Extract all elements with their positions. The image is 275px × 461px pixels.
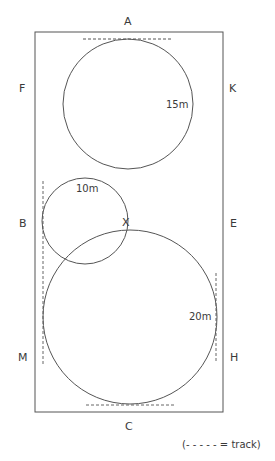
marker-x: X	[122, 216, 130, 229]
dressage-arena-diagram: X A F K B E M H C 15m 10m 20m (- - - - -…	[0, 0, 275, 461]
letter-b: B	[19, 217, 27, 230]
letter-h: H	[230, 351, 238, 364]
letter-k: K	[229, 82, 237, 95]
letter-e: E	[230, 217, 237, 230]
label-10m: 10m	[76, 183, 98, 194]
label-15m: 15m	[166, 99, 188, 110]
letter-f: F	[19, 82, 25, 95]
label-20m: 20m	[189, 311, 211, 322]
legend-track: (- - - - - = track)	[182, 439, 261, 450]
letter-a: A	[124, 15, 132, 28]
letter-m: M	[18, 351, 28, 364]
letter-c: C	[125, 420, 133, 433]
